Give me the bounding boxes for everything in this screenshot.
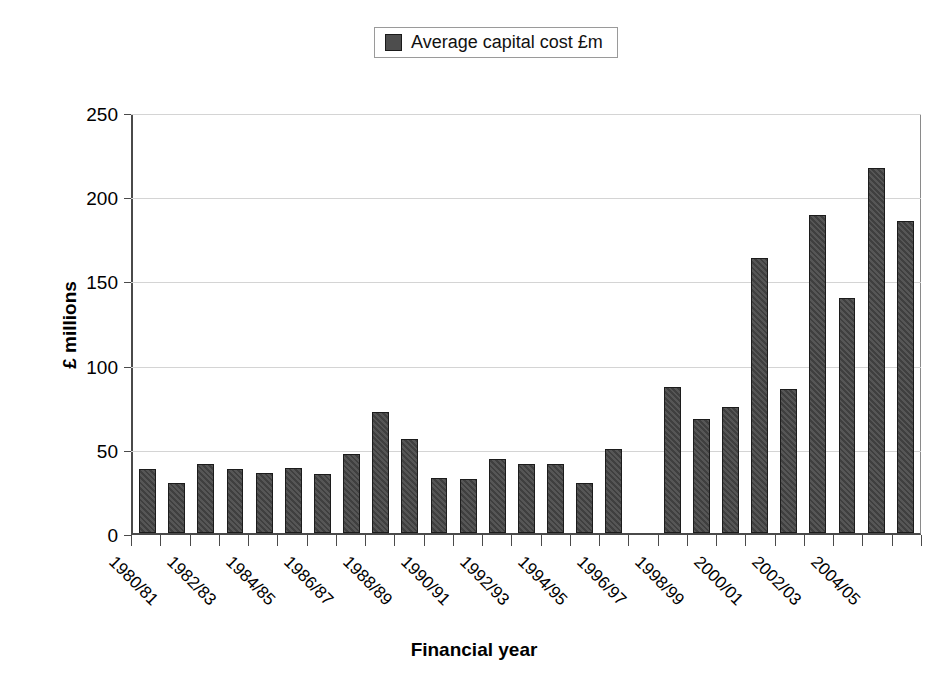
bar-series-average-capital-cost <box>133 114 920 533</box>
bar-slot <box>337 114 366 533</box>
x-axis-tick-mark <box>862 535 863 546</box>
x-axis-tick-label: 1984/85 <box>223 553 278 608</box>
bar <box>460 479 477 533</box>
y-axis-title: £ millions <box>59 281 81 369</box>
bar-slot <box>512 114 541 533</box>
x-axis-tick-label: 1996/97 <box>574 553 629 608</box>
y-axis-tick-label: 250 <box>58 105 118 124</box>
bar-slot <box>803 114 832 533</box>
x-axis-tick-mark <box>833 535 834 546</box>
bar <box>605 449 622 533</box>
bar-slot <box>395 114 424 533</box>
bar <box>197 464 214 533</box>
x-axis-tick-mark <box>277 535 278 546</box>
x-axis-tick-mark <box>892 535 893 546</box>
bar-slot <box>541 114 570 533</box>
x-axis-tick-label: 2000/01 <box>691 553 746 608</box>
x-axis-title: Financial year <box>0 639 948 661</box>
y-axis-tick-label: 200 <box>58 189 118 208</box>
bar <box>664 387 681 533</box>
x-axis-tick-mark <box>716 535 717 546</box>
bar <box>139 469 156 533</box>
x-axis-tick-mark <box>190 535 191 546</box>
x-axis-tick-mark <box>160 535 161 546</box>
x-axis-tick-mark <box>511 535 512 546</box>
bar <box>401 439 418 533</box>
x-axis-tick-label: 1998/99 <box>632 553 687 608</box>
bar-slot <box>483 114 512 533</box>
legend-label: Average capital cost £m <box>411 33 603 51</box>
bar-slot <box>745 114 774 533</box>
x-axis-tick-mark <box>424 535 425 546</box>
bar <box>780 389 797 533</box>
chart-legend: Average capital cost £m <box>374 27 618 58</box>
x-axis-tick-label: 1982/83 <box>164 553 219 608</box>
x-axis-tick-label: 1994/95 <box>515 553 570 608</box>
x-axis-tick-label: 1986/87 <box>281 553 336 608</box>
bar-slot <box>162 114 191 533</box>
bar-slot <box>220 114 249 533</box>
bar-slot <box>279 114 308 533</box>
bar-slot <box>628 114 657 533</box>
x-axis-tick-mark <box>775 535 776 546</box>
bar <box>227 469 244 533</box>
bar-slot <box>133 114 162 533</box>
x-axis-tick-mark <box>248 535 249 546</box>
chart-plot-area <box>131 114 921 535</box>
x-axis-tick-label: 1980/81 <box>106 553 161 608</box>
y-axis-tick-label: 50 <box>58 442 118 461</box>
x-axis-tick-mark <box>453 535 454 546</box>
bar <box>576 483 593 533</box>
bar-slot <box>658 114 687 533</box>
bar <box>547 464 564 533</box>
x-axis-ticks <box>131 535 921 547</box>
x-axis-tick-labels: 1980/811982/831984/851986/871988/891990/… <box>131 547 921 627</box>
x-axis-tick-mark <box>131 535 132 546</box>
x-axis-tick-label: 1990/91 <box>398 553 453 608</box>
bar-slot <box>687 114 716 533</box>
bar <box>431 478 448 533</box>
bar-slot <box>774 114 803 533</box>
bar-slot <box>570 114 599 533</box>
bar <box>839 298 856 533</box>
x-axis-tick-label: 2004/05 <box>808 553 863 608</box>
bar-slot <box>891 114 920 533</box>
bar <box>897 221 914 533</box>
bar <box>809 215 826 533</box>
bar-slot <box>599 114 628 533</box>
y-axis-tick-label: 150 <box>58 273 118 292</box>
bar <box>489 459 506 533</box>
bar <box>168 483 185 533</box>
x-axis-tick-mark <box>921 535 922 546</box>
x-axis-tick-mark <box>628 535 629 546</box>
bar <box>372 412 389 533</box>
x-axis-tick-mark <box>219 535 220 546</box>
x-axis-tick-mark <box>365 535 366 546</box>
x-axis-tick-mark <box>658 535 659 546</box>
bar <box>751 258 768 533</box>
y-axis-tick-label: 100 <box>58 358 118 377</box>
x-axis-tick-mark <box>482 535 483 546</box>
bar <box>722 407 739 533</box>
bar-slot <box>832 114 861 533</box>
x-axis-tick-mark <box>804 535 805 546</box>
x-axis-tick-label: 2002/03 <box>749 553 804 608</box>
bar-slot <box>454 114 483 533</box>
bar-slot <box>862 114 891 533</box>
bar-slot <box>366 114 395 533</box>
bar-slot <box>716 114 745 533</box>
x-axis-tick-mark <box>307 535 308 546</box>
legend-swatch-icon <box>385 34 402 51</box>
bar <box>285 468 302 533</box>
bar <box>343 454 360 533</box>
bar <box>518 464 535 533</box>
x-axis-tick-label: 1988/89 <box>340 553 395 608</box>
y-axis-title-container: £ millions <box>16 114 50 535</box>
x-axis-tick-mark <box>570 535 571 546</box>
x-axis-tick-mark <box>336 535 337 546</box>
bar <box>693 419 710 533</box>
bar <box>256 473 273 533</box>
x-axis-tick-mark <box>687 535 688 546</box>
x-axis-tick-label: 1992/93 <box>457 553 512 608</box>
bar-slot <box>424 114 453 533</box>
